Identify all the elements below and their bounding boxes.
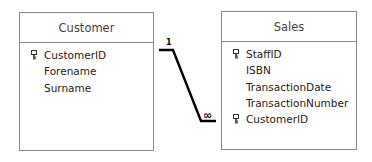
relationship-many-label: ∞	[203, 109, 212, 122]
relationship-line[interactable]	[0, 0, 372, 162]
relationship-one-label: 1	[166, 38, 172, 47]
